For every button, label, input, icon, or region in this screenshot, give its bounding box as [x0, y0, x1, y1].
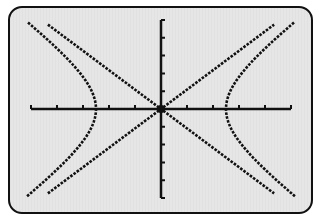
calculator-screen	[8, 6, 313, 214]
graph-plot	[10, 8, 311, 212]
